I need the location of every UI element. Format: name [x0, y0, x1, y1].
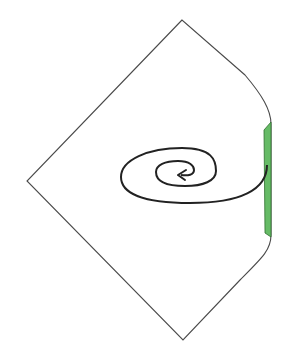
shaded-boundary-strip — [264, 122, 271, 237]
diamond-outline — [27, 20, 271, 340]
conformal-diagram — [0, 0, 287, 343]
spiral-worldline — [121, 148, 267, 203]
